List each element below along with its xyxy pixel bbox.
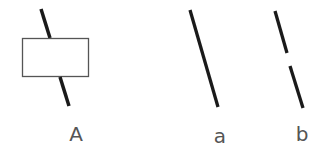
figure-A-label: A — [69, 124, 83, 144]
figure-a-label: a — [214, 126, 226, 146]
figure-b-lower-segment — [290, 66, 303, 108]
figure-A — [23, 9, 89, 106]
figure-a — [190, 10, 218, 107]
figure-b-upper-segment — [275, 11, 287, 53]
diagram-canvas — [0, 0, 332, 156]
figure-a-line — [190, 10, 218, 107]
figure-A-bottom-line — [60, 77, 69, 106]
figure-b — [275, 11, 303, 108]
figure-b-label: b — [296, 124, 309, 144]
figure-A-top-line — [41, 9, 50, 38]
figure-A-rectangle — [23, 39, 89, 77]
